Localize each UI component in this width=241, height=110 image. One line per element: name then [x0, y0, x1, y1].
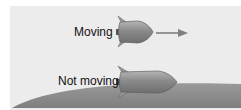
label-moving: Moving	[74, 25, 113, 39]
motion-arrow-icon	[156, 29, 188, 37]
label-not-moving: Not moving	[58, 74, 119, 88]
diagram-graphics	[0, 0, 241, 110]
diagram: Moving Not moving	[0, 0, 241, 110]
rocket-moving-icon	[116, 16, 153, 47]
